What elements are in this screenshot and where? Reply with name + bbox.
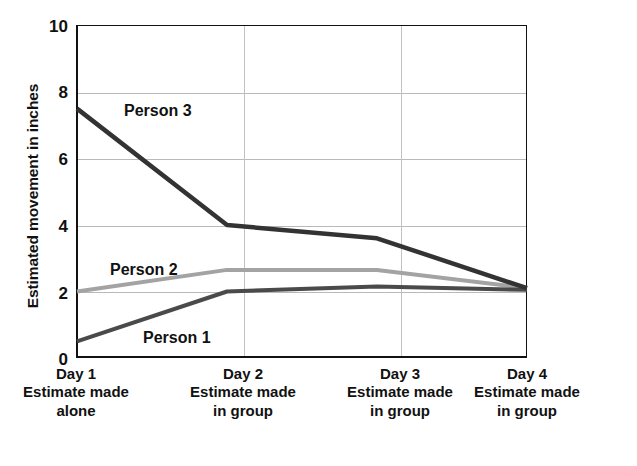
x-label-day-4: Day 4 Estimate made in group bbox=[452, 365, 602, 420]
x-label-day-4-line1: Estimate made bbox=[452, 383, 602, 401]
x-label-day-4-line2: in group bbox=[452, 402, 602, 420]
series-label-person-3: Person 3 bbox=[124, 103, 192, 119]
line-chart: Estimated movement in inches 10 8 6 4 2 … bbox=[0, 0, 637, 466]
x-label-day-4-day: Day 4 bbox=[452, 365, 602, 383]
series-label-person-1: Person 1 bbox=[143, 330, 211, 346]
x-label-day-2-day: Day 2 bbox=[168, 365, 318, 383]
x-label-day-2-line1: Estimate made bbox=[168, 383, 318, 401]
x-label-day-2-line2: in group bbox=[168, 402, 318, 420]
x-axis-labels: Day 1 Estimate made alone Day 2 Estimate… bbox=[0, 365, 637, 465]
x-label-day-1-line2: alone bbox=[1, 402, 151, 420]
series-label-person-2: Person 2 bbox=[110, 262, 178, 278]
x-label-day-1: Day 1 Estimate made alone bbox=[1, 365, 151, 420]
x-label-day-2: Day 2 Estimate made in group bbox=[168, 365, 318, 420]
x-label-day-1-line1: Estimate made bbox=[1, 383, 151, 401]
x-label-day-1-day: Day 1 bbox=[1, 365, 151, 383]
